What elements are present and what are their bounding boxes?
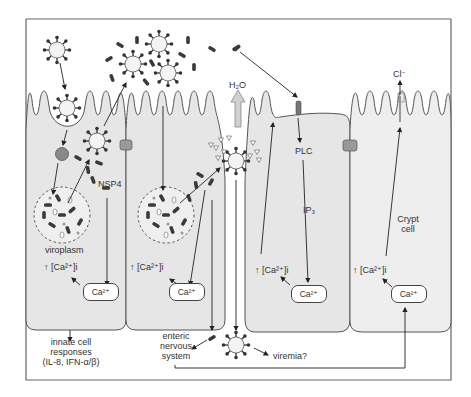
cell-1-ca-store: Ca²⁺ <box>83 283 119 301</box>
innate-cell-responses-label: innate cell responses (IL-8, IFN-α/β) <box>40 337 102 367</box>
virus-endocytosis-icon <box>53 94 82 123</box>
virus-basolateral-icon <box>222 331 251 360</box>
cell-4-ca-store: Ca²⁺ <box>391 285 427 303</box>
endosome-vesicle-icon <box>56 148 69 161</box>
h2o-label: H₂O <box>229 80 246 90</box>
nsp4-receptor-icon <box>296 101 301 115</box>
viroplasm-1-icon <box>34 187 90 243</box>
viroplasm-2-icon <box>138 187 194 243</box>
enteric-nervous-system-label: enteric nervous system <box>156 331 196 361</box>
chloride-label: Cl⁻ <box>393 69 407 79</box>
plc-label: PLC <box>295 146 313 156</box>
cell-2-ca-increase-label: ↑ [Ca²⁺]i <box>130 262 164 272</box>
tight-junction-2 <box>343 140 357 151</box>
virus-extracellular-icon <box>43 36 72 65</box>
cell-3-ca-increase-label: ↑ [Ca²⁺]i <box>255 265 289 275</box>
cell-3-ca-store: Ca²⁺ <box>291 285 327 303</box>
virus-extracellular-icon <box>145 30 174 59</box>
progeny-virus-icon <box>83 127 112 156</box>
cell-4-ca-increase-label: ↑ [Ca²⁺]i <box>353 265 387 275</box>
virus-extracellular-icon <box>119 50 148 79</box>
viremia-label: viremia? <box>273 351 307 361</box>
h2o-arrow-icon <box>231 90 245 127</box>
virus-extracellular-icon <box>154 59 183 88</box>
cell-2-ca-store: Ca²⁺ <box>169 283 205 301</box>
crypt-cell-label: Crypt cell <box>393 214 423 234</box>
tight-junction-1 <box>120 140 132 150</box>
cell-1-ca-increase-label: ↑ [Ca²⁺]i <box>44 262 78 272</box>
ip3-label: IP₃ <box>303 205 315 215</box>
viroplasm-label: viroplasm <box>45 245 84 255</box>
nsp4-label: NSP4 <box>98 179 122 189</box>
